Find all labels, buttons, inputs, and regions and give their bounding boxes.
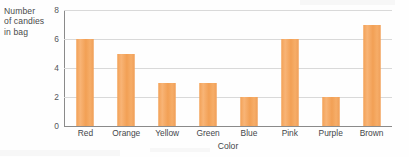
bar [77,39,94,126]
y-tick-label: 6 [54,34,59,44]
y-tick-label: 2 [54,92,59,102]
plot-area: 02468 [64,10,392,126]
x-tick-label: Pink [269,128,310,138]
bar-slot [310,10,351,126]
x-tick-label: Red [65,128,106,138]
y-axis-title: Number of candies in bag [4,6,56,37]
x-tick-label: Orange [106,128,147,138]
bar-slot [65,10,106,126]
bar [322,97,339,126]
bar-slot [269,10,310,126]
bar [240,97,257,126]
bar-chart-figure: Number of candies in bag 02468 RedOrange… [0,0,409,157]
y-tick-label: 4 [54,63,59,73]
x-tick-label: Yellow [147,128,188,138]
x-axis-tick-labels: RedOrangeYellowGreenBluePinkPurpleBrown [65,128,392,141]
x-tick-label: Green [188,128,229,138]
x-tick-label: Blue [229,128,270,138]
bar [363,25,380,127]
bar-slot [351,10,392,126]
bar [281,39,298,126]
scan-artifact [300,0,395,5]
x-tick-label: Brown [351,128,392,138]
y-tick-label: 8 [54,5,59,15]
x-tick-label: Purple [310,128,351,138]
x-axis-title: Color [64,141,392,151]
bar [200,83,217,127]
bar-slot [229,10,270,126]
bar [118,54,135,127]
bar-slot [106,10,147,126]
x-axis-baseline [64,126,392,127]
bar-slot [188,10,229,126]
bar-slot [147,10,188,126]
bars-layer [65,10,392,126]
bar [159,83,176,127]
y-tick-label: 0 [54,121,59,131]
